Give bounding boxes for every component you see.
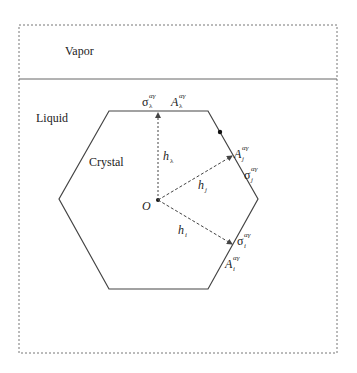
svg-text:A: A	[224, 257, 233, 271]
svg-text:h: h	[178, 223, 184, 237]
h-lambda-label: h λ	[163, 149, 174, 165]
svg-text:j: j	[204, 186, 207, 194]
crystal-diagram: Vapor Liquid Crystal O σ αγ λ A αγ λ h λ…	[0, 0, 357, 373]
svg-text:αγ: αγ	[242, 144, 249, 152]
h-j-label: h j	[198, 178, 207, 194]
svg-text:j: j	[241, 155, 244, 163]
area-lambda-label: A αγ λ	[170, 92, 186, 110]
svg-text:j: j	[250, 176, 253, 184]
svg-text:λ: λ	[149, 102, 153, 110]
svg-text:λ: λ	[170, 157, 174, 165]
svg-text:σ: σ	[237, 234, 244, 248]
crystal-label: Crystal	[89, 155, 124, 169]
area-j-label: A αγ j	[233, 144, 249, 163]
svg-text:h: h	[163, 149, 169, 163]
liquid-label: Liquid	[36, 111, 68, 125]
svg-text:A: A	[170, 95, 179, 109]
svg-text:αγ: αγ	[251, 165, 258, 173]
svg-text:λ: λ	[179, 102, 183, 110]
svg-text:σ: σ	[142, 95, 149, 109]
svg-text:σ: σ	[244, 168, 251, 182]
h-i-label: h i	[178, 223, 187, 239]
svg-text:αγ: αγ	[149, 92, 156, 100]
svg-text:A: A	[233, 147, 242, 161]
svg-text:αγ: αγ	[233, 254, 240, 262]
sigma-lambda-label: σ αγ λ	[142, 92, 156, 110]
system-boundary	[19, 25, 337, 353]
svg-text:i: i	[233, 265, 235, 273]
sigma-j-label: σ αγ j	[244, 165, 258, 184]
svg-text:αγ: αγ	[244, 231, 251, 239]
h-i-vector	[158, 200, 232, 244]
sigma-i-label: σ αγ i	[237, 231, 251, 250]
face-j-point	[218, 130, 222, 134]
origin-label: O	[142, 199, 151, 213]
svg-text:i: i	[185, 231, 187, 239]
svg-text:h: h	[198, 178, 204, 192]
vapor-label: Vapor	[65, 44, 94, 58]
svg-text:αγ: αγ	[179, 92, 186, 100]
area-i-label: A αγ i	[224, 254, 240, 273]
svg-text:i: i	[244, 242, 246, 250]
